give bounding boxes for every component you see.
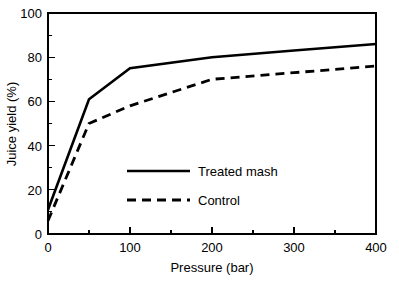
y-axis-title: Juice yield (%) [4,82,19,167]
x-axis-major-ticks [48,227,376,234]
x-tick-label-200: 200 [201,240,223,255]
chart-figure: 100 80 60 40 20 0 0 100 200 300 400 Pres… [0,0,399,283]
y-axis-minor-ticks [48,35,52,212]
y-tick-label-0: 0 [35,227,42,242]
legend-label-control: Control [198,193,240,208]
y-axis-tick-labels: 100 80 60 40 20 0 [20,6,42,242]
y-tick-label-80: 80 [28,50,42,65]
chart-canvas: 100 80 60 40 20 0 0 100 200 300 400 Pres… [0,0,399,283]
y-tick-label-20: 20 [28,183,42,198]
x-tick-label-0: 0 [44,240,51,255]
x-tick-label-300: 300 [283,240,305,255]
x-axis-tick-labels: 0 100 200 300 400 [44,240,386,255]
x-tick-label-100: 100 [119,240,141,255]
x-tick-label-400: 400 [365,240,387,255]
y-tick-label-100: 100 [20,6,42,21]
y-tick-label-60: 60 [28,94,42,109]
legend-label-treated-mash: Treated mash [198,164,278,179]
y-tick-label-40: 40 [28,139,42,154]
chart-legend: Treated mash Control [127,164,278,208]
x-axis-title: Pressure (bar) [170,260,253,275]
